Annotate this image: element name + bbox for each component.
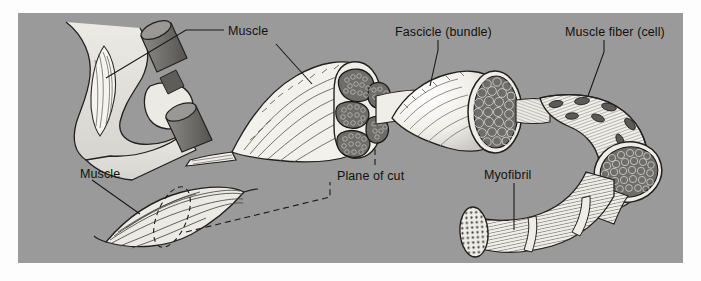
label-plane-of-cut: Plane of cut (337, 169, 404, 183)
muscle-belly-cut-illustration (186, 44, 390, 166)
label-myofibril: Myofibril (484, 168, 531, 182)
diagram-artwork (0, 0, 701, 281)
whole-muscle-illustration (92, 180, 258, 252)
myofibril-illustration (458, 172, 628, 258)
arm-with-dumbbell-illustration (66, 17, 224, 180)
fascicle-open-end (468, 71, 522, 153)
fascicle-tube-illustration (376, 40, 522, 153)
label-muscle-whole: Muscle (80, 167, 120, 181)
muscle-structure-figure: Muscle Fascicle (bundle) Muscle fiber (c… (0, 0, 701, 281)
label-muscle-fiber-cell: Muscle fiber (cell) (565, 25, 665, 39)
label-fascicle-bundle: Fascicle (bundle) (395, 25, 492, 39)
label-muscle-arm: Muscle (228, 24, 268, 38)
myofibril-open-end (458, 206, 489, 258)
